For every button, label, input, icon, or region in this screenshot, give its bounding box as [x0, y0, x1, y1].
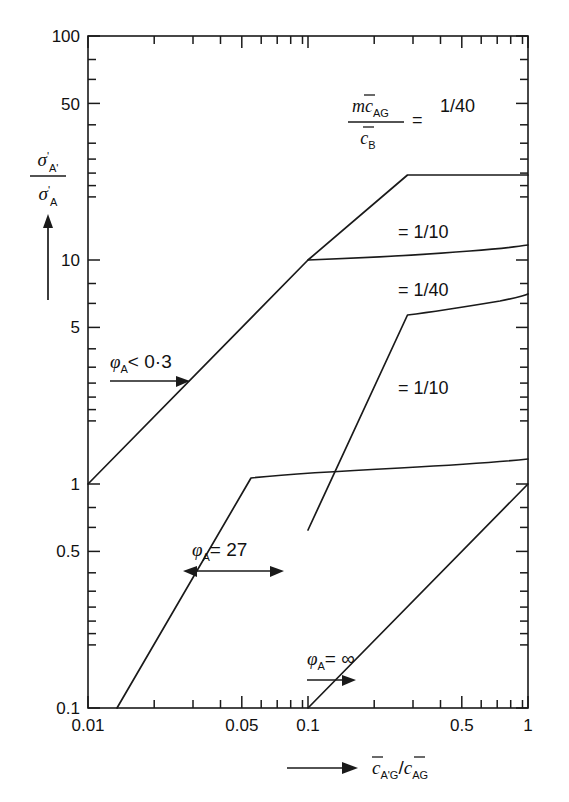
ratio-value-1-40: 1/40: [440, 96, 475, 116]
x-tick-label-1: 1: [523, 716, 532, 735]
log-log-chart: 100 50 10 5 1 0.5 0.1 0.01 0.05 0.1 0.5 …: [0, 0, 569, 802]
ratio-c-top: c: [365, 96, 373, 116]
phi-infinity-text: φA= ∞: [307, 648, 355, 672]
y-tick-label-0-5: 0.5: [56, 542, 80, 561]
y-tick-label-50: 50: [61, 95, 80, 114]
y-tick-label-5: 5: [71, 318, 80, 337]
figure-container: 100 50 10 5 1 0.5 0.1 0.01 0.05 0.1 0.5 …: [0, 0, 569, 802]
phi-27-text: φA= 27: [192, 539, 247, 563]
x-tick-label-0-5: 0.5: [450, 716, 474, 735]
y-tick-label-100: 100: [52, 27, 80, 46]
chart-background: [0, 0, 569, 802]
x-tick-label-0-1: 0.1: [296, 716, 320, 735]
y-tick-label-10: 10: [61, 251, 80, 270]
phi-lt-03-text: φA< 0·3: [110, 351, 172, 375]
annotation-phi-infinity: φA= ∞: [307, 648, 356, 686]
ratio-equals-sign: =: [412, 110, 423, 130]
x-label-c1-sub: A'G: [380, 769, 398, 781]
curve-label-1-40-mid: = 1/40: [398, 280, 449, 300]
curve-label-1-10-lower: = 1/10: [398, 378, 449, 398]
x-tick-label-0-01: 0.01: [71, 716, 104, 735]
curve-label-1-10-upper: = 1/10: [398, 222, 449, 242]
x-label-c2-sub: AG: [412, 769, 428, 781]
x-tick-label-0-05: 0.05: [225, 716, 258, 735]
y-tick-label-1: 1: [71, 475, 80, 494]
